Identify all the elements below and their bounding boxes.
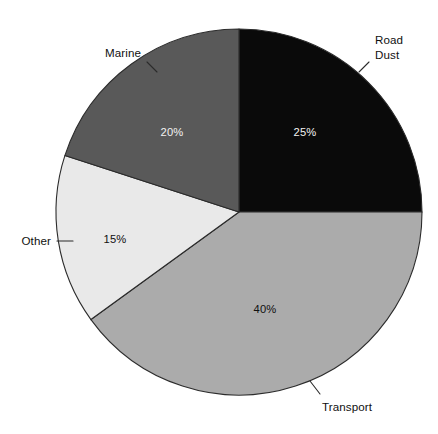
pie-slices: [56, 29, 422, 395]
value-label-transport: 40%: [254, 303, 277, 315]
category-label-other: Other: [22, 234, 52, 247]
value-label-marine: 20%: [161, 126, 184, 138]
value-label-road-dust: 25%: [294, 126, 317, 138]
leader-line-transport: [310, 381, 320, 394]
category-label-transport: Transport: [322, 400, 373, 413]
category-label-road-dust-line2: Dust: [375, 48, 400, 61]
category-label-marine: Marine: [105, 46, 141, 59]
leader-line-road-dust: [359, 62, 369, 72]
value-label-other: 15%: [104, 233, 127, 245]
category-label-road-dust-line1: Road: [375, 33, 403, 46]
pie-chart-svg: 25% 40% 15% 20% Road Dust Marine Other T…: [0, 0, 438, 434]
pie-chart-figure: 25% 40% 15% 20% Road Dust Marine Other T…: [0, 0, 438, 434]
